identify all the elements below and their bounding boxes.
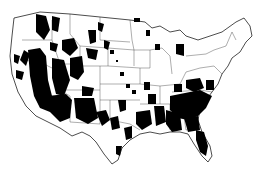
map-canvas <box>0 0 262 178</box>
us-county-map <box>0 0 262 178</box>
